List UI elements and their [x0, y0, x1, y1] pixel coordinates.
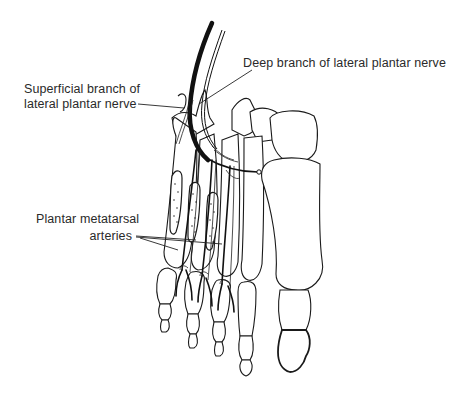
label-plantar-metatarsal-line2: arteries — [36, 229, 132, 243]
label-plantar-metatarsal-line1: Plantar metatarsal — [36, 212, 132, 226]
label-superficial-branch-line1: Superficial branch of — [24, 82, 140, 96]
label-superficial-branch-line2: lateral plantar nerve — [24, 97, 137, 111]
label-deep-branch-lateral-plantar-nerve: Deep branch of lateral plantar nerve — [243, 56, 446, 70]
